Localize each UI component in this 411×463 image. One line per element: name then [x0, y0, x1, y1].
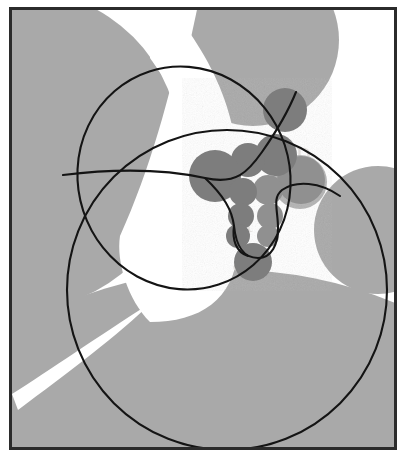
- figure-canvas: p st g: [0, 0, 411, 463]
- disk-chain-item: [257, 203, 283, 229]
- disk-chain-item: [253, 175, 283, 205]
- disk-chain-item: [263, 88, 307, 132]
- disk-chain-item: [229, 178, 257, 206]
- figure-container: p st g: [0, 0, 411, 463]
